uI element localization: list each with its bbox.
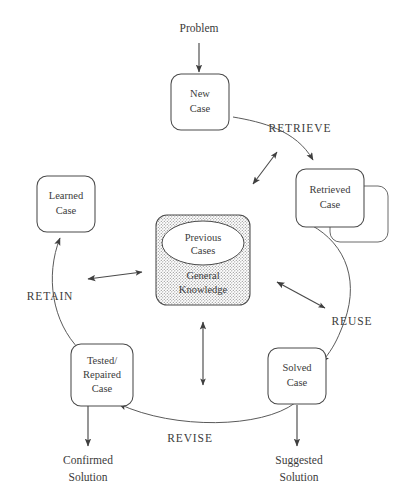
cbr-diagram-canvas: Previous Cases General Knowledge New Cas…	[0, 0, 416, 504]
tested-repaired-case-label-line3: Case	[92, 383, 113, 394]
problem-label: Problem	[180, 22, 219, 34]
node-new-case[interactable]: New Case	[171, 74, 229, 130]
confirmed-solution-label-line1: Confirmed	[63, 454, 113, 466]
cbr-cycle-diagram: Previous Cases General Knowledge New Cas…	[0, 0, 416, 504]
previous-cases-label-line1: Previous	[185, 232, 222, 243]
suggested-solution-label-line2: Solution	[280, 471, 319, 483]
phase-label-retain: RETAIN	[27, 290, 74, 302]
node-solved-case[interactable]: Solved Case	[268, 348, 326, 404]
new-case-label-line2: Case	[190, 103, 211, 114]
phase-label-reuse: REUSE	[332, 315, 373, 327]
revise-flow-arc	[119, 403, 295, 423]
new-case-label-line1: New	[190, 88, 210, 99]
reuse-knowledge-link	[277, 282, 325, 308]
general-knowledge-label-line2: Knowledge	[179, 284, 228, 295]
retain-knowledge-link	[88, 272, 142, 279]
confirmed-solution-label-line2: Solution	[69, 471, 108, 483]
suggested-solution-label-line1: Suggested	[275, 454, 323, 467]
node-tested-repaired-case[interactable]: Tested/ Repaired Case	[71, 344, 133, 406]
retrieved-case-label-line2: Case	[320, 199, 341, 210]
retrieved-case-box[interactable]	[296, 169, 364, 227]
learned-case-label-line2: Case	[56, 205, 77, 216]
retrieved-case-label-line1: Retrieved	[310, 184, 352, 195]
new-case-box[interactable]	[171, 74, 229, 130]
phase-label-revise: REVISE	[167, 432, 213, 444]
node-learned-case[interactable]: Learned Case	[37, 176, 95, 232]
solved-case-label-line2: Case	[287, 377, 308, 388]
learned-case-label-line1: Learned	[49, 190, 84, 201]
knowledge-container: Previous Cases General Knowledge	[156, 215, 250, 305]
learned-case-box[interactable]	[37, 176, 95, 232]
tested-repaired-case-label-line2: Repaired	[83, 369, 122, 380]
solved-case-label-line1: Solved	[282, 362, 312, 373]
general-knowledge-label-line1: General	[186, 270, 219, 281]
node-retrieved-case[interactable]: Retrieved Case	[296, 169, 364, 227]
previous-cases-ellipse	[162, 221, 244, 265]
phase-label-retrieve: RETRIEVE	[269, 122, 332, 134]
solved-case-box[interactable]	[268, 348, 326, 404]
tested-repaired-case-label-line1: Tested/	[87, 355, 117, 366]
previous-cases-label-line2: Cases	[191, 245, 216, 256]
reuse-flow-arc	[311, 225, 350, 362]
retrieve-knowledge-link	[253, 152, 277, 184]
